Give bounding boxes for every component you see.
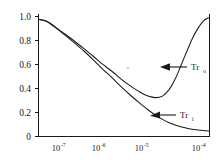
curve-tr-outer [39,18,210,98]
x-tick-exponent-4: -4 [201,142,206,148]
x-tick-exponent-2: -6 [101,142,106,148]
x-tick-base-2: 10 [92,143,101,153]
x-tick-label-1: 10 -7 [52,142,66,153]
curve-label-outer-sub: o [203,68,206,74]
y-tick-label-6: 0 [26,132,31,142]
annotation-tr-outer: Tr o [160,62,206,74]
y-tick-label-4: 0.4 [19,84,31,94]
y-tick-label-2: 0.8 [19,36,31,46]
x-tick-exponent-1: -7 [61,142,66,148]
y-axis-ticks [35,17,39,137]
y-tick-label-3: 0.6 [19,60,31,70]
arrow-head-outer [160,63,170,71]
annotation-tr-inner: Tr i [150,110,194,122]
x-axis-labels: 10 -7 10 -6 10 -5 10 -4 [52,142,206,153]
curve-label-outer-base: Tr [191,62,199,72]
x-tick-label-4: 10 -4 [192,142,206,153]
figure-container: 1.0 0.8 0.6 0.4 0.2 0 10 -7 10 -6 10 -5 … [0,0,224,160]
x-tick-base-1: 10 [52,143,61,153]
x-tick-base-3: 10 [135,143,144,153]
curve-label-inner-sub: i [192,116,194,122]
transmission-line-chart: 1.0 0.8 0.6 0.4 0.2 0 10 -7 10 -6 10 -5 … [0,0,224,160]
x-tick-exponent-3: -5 [144,142,149,148]
x-tick-label-3: 10 -5 [135,142,149,153]
y-axis-labels: 1.0 0.8 0.6 0.4 0.2 0 [19,12,31,142]
x-tick-base-4: 10 [192,143,201,153]
paper-speck [127,67,129,69]
y-tick-label-1: 1.0 [19,12,31,22]
x-tick-label-2: 10 -6 [92,142,106,153]
curve-label-inner-base: Tr [180,110,188,120]
y-tick-label-5: 0.2 [19,108,31,118]
